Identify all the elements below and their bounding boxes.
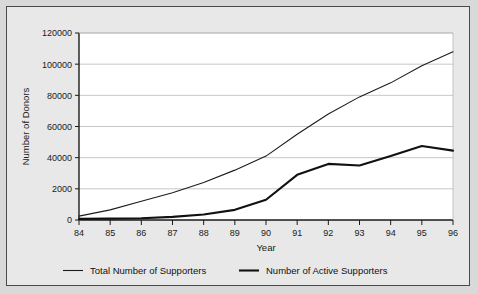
legend-label-0: Total Number of Supporters (90, 265, 206, 276)
chart-plot-wrapper: 0200040000600008000010000012000084858687… (7, 7, 469, 285)
y-tick-label: 80000 (47, 91, 72, 101)
x-tick-label: 85 (105, 228, 115, 238)
x-tick-label: 84 (74, 228, 84, 238)
x-tick-label: 89 (230, 228, 240, 238)
x-tick-label: 96 (448, 228, 458, 238)
y-tick-label: 100000 (42, 60, 72, 70)
x-tick-label: 94 (386, 228, 396, 238)
y-tick-label: 40000 (47, 153, 72, 163)
y-tick-label: 60000 (47, 122, 72, 132)
x-tick-label: 91 (292, 228, 302, 238)
legend-label-1: Number of Active Supporters (266, 265, 388, 276)
x-tick-label: 88 (199, 228, 209, 238)
y-tick-label: 2000 (52, 184, 72, 194)
x-tick-label: 92 (323, 228, 333, 238)
x-tick-label: 86 (136, 228, 146, 238)
line-chart: 0200040000600008000010000012000084858687… (7, 7, 469, 285)
x-tick-label: 95 (417, 228, 427, 238)
y-axis-title: Number of Donors (20, 87, 31, 165)
y-tick-label: 0 (67, 215, 72, 225)
y-tick-label: 120000 (42, 28, 72, 38)
x-tick-label: 93 (354, 228, 364, 238)
x-tick-label: 87 (167, 228, 177, 238)
x-tick-label: 90 (261, 228, 271, 238)
x-axis-title: Year (256, 242, 275, 253)
chart-figure: 0200040000600008000010000012000084858687… (6, 6, 470, 286)
